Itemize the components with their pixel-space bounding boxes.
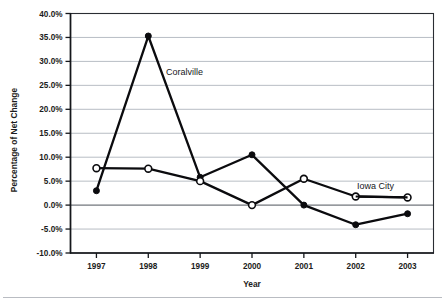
y-tick-label: 40.0% bbox=[39, 10, 63, 19]
data-point-coralville-1998 bbox=[145, 33, 151, 39]
chart-background bbox=[0, 0, 445, 301]
y-tick-label: 5.0% bbox=[44, 177, 63, 186]
y-tick-label: 0.0% bbox=[44, 201, 63, 210]
coralville-annotation: Coralville bbox=[166, 67, 203, 77]
y-tick-label: 35.0% bbox=[39, 33, 63, 42]
data-point-coralville-1997 bbox=[93, 188, 99, 194]
iowa-city-label: Iowa City bbox=[357, 181, 395, 191]
data-point-coralville-2002 bbox=[353, 222, 359, 228]
iowa-city-leader-line bbox=[356, 196, 408, 197]
x-tick-label: 1998 bbox=[139, 262, 158, 271]
x-tick-label: 2002 bbox=[347, 262, 366, 271]
x-tick-label: 1997 bbox=[87, 262, 106, 271]
y-tick-label: 15.0% bbox=[39, 129, 63, 138]
coralville-label: Coralville bbox=[166, 67, 203, 77]
y-tick-label: 25.0% bbox=[39, 81, 63, 90]
chart-canvas: 40.0%35.0%30.0%25.0%20.0%15.0%10.0%5.0%0… bbox=[0, 0, 445, 301]
y-tick-label: 10.0% bbox=[39, 153, 63, 162]
data-point-iowa-city-1997 bbox=[93, 165, 100, 172]
data-point-iowa-city-1998 bbox=[145, 165, 152, 172]
y-tick-label: -5.0% bbox=[41, 225, 63, 234]
x-tick-label: 2001 bbox=[295, 262, 314, 271]
y-tick-label: -10.0% bbox=[37, 249, 64, 258]
x-axis-title: Year bbox=[243, 279, 261, 289]
data-point-coralville-2000 bbox=[249, 152, 255, 158]
y-axis-title: Percentage of Net Change bbox=[9, 88, 19, 193]
data-point-coralville-2001 bbox=[301, 202, 307, 208]
y-tick-label: 30.0% bbox=[39, 57, 63, 66]
data-point-iowa-city-2000 bbox=[249, 202, 256, 209]
data-point-iowa-city-2001 bbox=[300, 175, 307, 182]
x-tick-label: 2000 bbox=[243, 262, 262, 271]
iowa-city-annotation: Iowa City bbox=[357, 181, 395, 191]
x-tick-label: 2003 bbox=[398, 262, 417, 271]
line-chart: 40.0%35.0%30.0%25.0%20.0%15.0%10.0%5.0%0… bbox=[0, 0, 445, 301]
y-tick-label: 20.0% bbox=[39, 105, 63, 114]
data-point-iowa-city-1999 bbox=[197, 178, 204, 185]
data-point-coralville-2003 bbox=[405, 211, 411, 217]
x-tick-label: 1999 bbox=[191, 262, 210, 271]
